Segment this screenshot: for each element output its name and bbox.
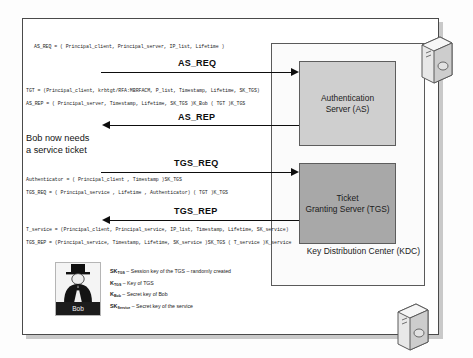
formula-as-req-text: AS_REQ = ( Principal_client, Principal_s…	[34, 44, 224, 49]
formula-authenticator-text: Authenticator = ( Principal_client , Tim…	[26, 177, 182, 182]
as-label-line2: Server (AS)	[321, 104, 374, 115]
server-tower-icon-top	[416, 33, 456, 89]
formula-tgt-text: TGT = (Principal_client, krbtgt/RFA:MBRF…	[26, 88, 260, 93]
annotation-line1: Bob now needs	[26, 133, 89, 145]
arrow-head-right-icon-as-req	[291, 68, 299, 76]
legend-item: SKTGS – Session key of the TGS – randoml…	[110, 266, 295, 278]
legend-item: KTGS – Key of TGS	[110, 278, 295, 290]
kdc-label: Key Distribution Center (KDC)	[296, 246, 420, 257]
legend-text: – Secret key of Bob	[122, 291, 167, 297]
formula-as-rep-text: AS_REP = ( Principal_server, Timestamp, …	[26, 101, 245, 106]
formula-authenticator: Authenticator = ( Principal_client , Tim…	[26, 177, 182, 183]
message-arrow-tgs-req	[101, 172, 291, 173]
legend-symbol: SKService	[110, 303, 130, 309]
message-label-tgs-rep: TGS_REP	[174, 206, 217, 216]
arrow-head-left-icon-tgs-rep	[102, 216, 110, 224]
annotation-bob-needs-ticket: Bob now needs a service ticket	[26, 133, 89, 156]
legend-text: – Secret key of the service	[132, 303, 193, 309]
formula-as-rep: AS_REP = ( Principal_server, Timestamp, …	[26, 101, 245, 107]
tgs-label-line2: Granting Server (TGS)	[305, 204, 389, 215]
legend-symbol: SKTGS	[110, 268, 125, 274]
formula-t-service-text: T_service = (Principal_client, Principal…	[26, 227, 289, 232]
server-tower-icon-bottom	[392, 300, 432, 356]
actor-bob[interactable]: Bob	[55, 262, 101, 316]
kdc-label-text: Key Distribution Center (KDC)	[307, 246, 420, 256]
legend-item: KBob – Secret key of Bob	[110, 289, 295, 301]
formula-tgs-rep-text: TGS_REP = (Principal_service, Timestamp,…	[26, 240, 291, 245]
formula-tgs-req: TGS_REQ = ( Principal_service , Lifetime…	[26, 190, 228, 196]
message-arrow-as-rep	[110, 125, 299, 126]
formula-tgs-req-text: TGS_REQ = ( Principal_service , Lifetime…	[26, 190, 228, 195]
actor-bob-caption: Bob	[56, 302, 100, 315]
message-label-as-req: AS_REQ	[178, 58, 216, 68]
annotation-line2: a service ticket	[26, 145, 89, 157]
message-arrow-tgs-rep	[110, 220, 299, 221]
node-authentication-server[interactable]: Authentication Server (AS)	[299, 61, 396, 146]
formula-tgt: TGT = (Principal_client, krbtgt/RFA:MBRF…	[26, 88, 260, 94]
legend-symbol: KTGS	[110, 280, 121, 286]
node-ticket-granting-server[interactable]: Ticket Granting Server (TGS)	[299, 163, 396, 244]
legend-text: – Key of TGS	[123, 280, 154, 286]
legend: SKTGS – Session key of the TGS – randoml…	[110, 266, 295, 312]
formula-t-service: T_service = (Principal_client, Principal…	[26, 227, 289, 233]
as-label-line1: Authentication	[321, 93, 374, 104]
diagram-canvas: Key Distribution Center (KDC) Authentica…	[0, 0, 473, 358]
person-tophat-icon	[56, 263, 100, 303]
message-label-tgs-req: TGS_REQ	[174, 158, 218, 168]
legend-item: SKService – Secret key of the service	[110, 301, 295, 313]
formula-tgs-rep: TGS_REP = (Principal_service, Timestamp,…	[26, 240, 291, 246]
formula-as-req: AS_REQ = ( Principal_client, Principal_s…	[34, 44, 224, 50]
message-label-as-rep: AS_REP	[178, 112, 215, 122]
arrow-head-left-icon-as-rep	[102, 121, 110, 129]
arrow-head-right-icon-tgs-req	[291, 168, 299, 176]
legend-symbol: KBob	[110, 291, 121, 297]
legend-text: – Session key of the TGS – randomly crea…	[126, 268, 231, 274]
message-arrow-as-req	[101, 72, 291, 73]
tgs-label-line1: Ticket	[305, 193, 389, 204]
